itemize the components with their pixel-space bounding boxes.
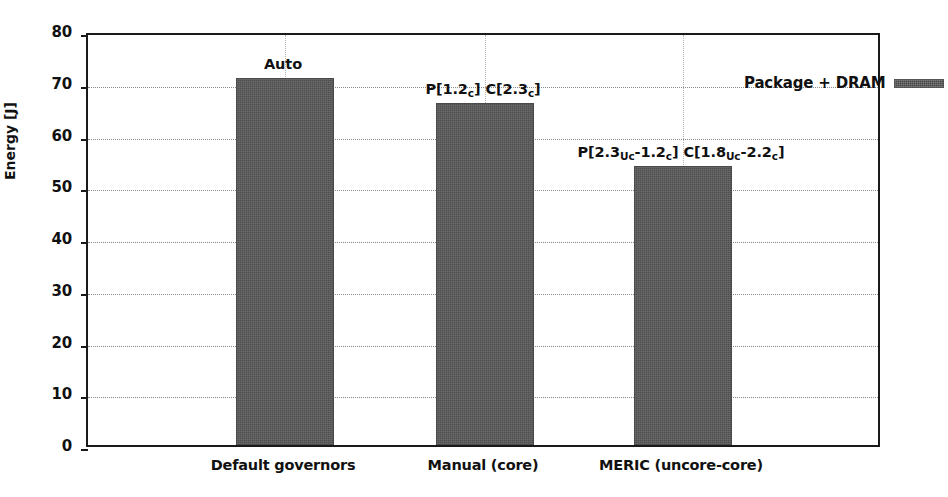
y-tick-mark — [81, 190, 88, 192]
bar-annotation: Auto — [264, 56, 302, 72]
y-axis-title: Energy [J] — [2, 160, 18, 180]
y-tick-mark — [81, 449, 88, 451]
y-tick-label: 80 — [0, 23, 72, 41]
x-category-label: Default governors — [211, 457, 356, 473]
y-tick-label: 70 — [0, 75, 72, 93]
y-tick-mark — [81, 87, 88, 89]
y-tick-mark — [81, 242, 88, 244]
x-category-label: Manual (core) — [428, 457, 539, 473]
legend-swatch-package-dram — [894, 79, 944, 88]
bar-annotation: P[2.3Uc-1.2c] C[1.8Uc-2.2c] — [578, 144, 785, 160]
y-tick-label: 20 — [0, 334, 72, 352]
x-category-label: MERIC (uncore-core) — [599, 457, 763, 473]
y-tick-mark — [81, 35, 88, 37]
legend-label: Package + DRAM — [744, 74, 885, 92]
y-tick-label: 60 — [0, 127, 72, 145]
bar — [634, 166, 732, 445]
y-tick-label: 50 — [0, 178, 72, 196]
y-tick-mark — [81, 294, 88, 296]
bar-annotation: P[1.2c] C[2.3c] — [425, 81, 540, 97]
y-tick-label: 30 — [0, 282, 72, 300]
bar — [236, 78, 334, 445]
y-tick-mark — [81, 397, 88, 399]
y-tick-mark — [81, 139, 88, 141]
y-tick-label: 40 — [0, 230, 72, 248]
bar — [436, 103, 534, 445]
y-tick-label: 0 — [0, 437, 72, 455]
y-tick-label: 10 — [0, 385, 72, 403]
legend: Package + DRAM — [736, 70, 948, 96]
y-tick-mark — [81, 346, 88, 348]
